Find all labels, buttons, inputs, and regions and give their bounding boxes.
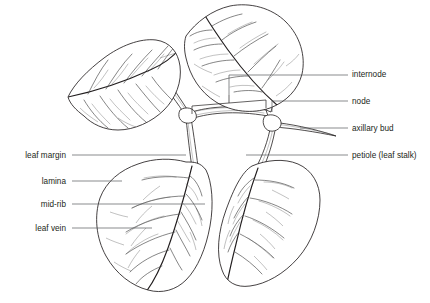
- label-node: node: [352, 97, 371, 106]
- label-axillary-bud: axillary bud: [352, 124, 394, 133]
- label-lamina: lamina: [42, 177, 67, 186]
- label-petiole: petiole (leaf stalk): [352, 151, 417, 160]
- left-node: [179, 108, 197, 123]
- label-internode: internode: [352, 70, 387, 79]
- diagram-canvas: internode node axillary bud petiole (lea…: [0, 0, 430, 303]
- right-node: [263, 115, 281, 131]
- leaf-structure-diagram: internode node axillary bud petiole (lea…: [0, 0, 430, 303]
- label-leaf-vein: leaf vein: [35, 224, 66, 233]
- label-leaf-margin: leaf margin: [25, 151, 66, 160]
- label-mid-rib: mid-rib: [41, 200, 67, 209]
